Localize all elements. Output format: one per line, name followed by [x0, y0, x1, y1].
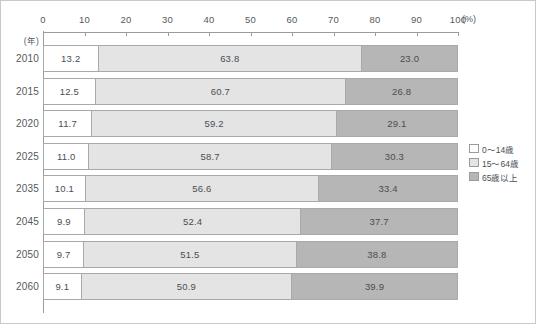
row-year-label: 2015	[1, 78, 39, 105]
segment-age-15-64[interactable]: 59.2	[92, 111, 337, 136]
segment-age-0-14[interactable]: 11.0	[44, 144, 89, 169]
row-year-label: 2010	[1, 45, 39, 72]
segment-age-65-plus[interactable]: 39.9	[292, 274, 457, 299]
legend-item: 65歳以上	[469, 170, 533, 183]
legend-label: 0〜14歳	[482, 143, 514, 155]
segment-age-15-64[interactable]: 63.8	[99, 46, 363, 71]
segment-age-65-plus[interactable]: 33.4	[319, 176, 457, 201]
legend-swatch-icon	[469, 144, 479, 153]
stacked-bar[interactable]: 12.560.726.8	[43, 78, 458, 105]
segment-age-0-14[interactable]: 13.2	[44, 46, 99, 71]
row-year-label: 2060	[1, 273, 39, 300]
row-year-label: 2035	[1, 175, 39, 202]
stacked-bar[interactable]: 9.952.437.7	[43, 208, 458, 235]
stacked-bar[interactable]: 10.156.633.4	[43, 175, 458, 202]
row-year-label: 2045	[1, 208, 39, 235]
segment-age-15-64[interactable]: 58.7	[89, 144, 331, 169]
legend-label: 15〜64歳	[482, 157, 519, 169]
legend-label: 65歳以上	[482, 171, 518, 183]
segment-age-65-plus[interactable]: 23.0	[362, 46, 457, 71]
legend: 0〜14歳15〜64歳65歳以上	[469, 142, 533, 184]
segment-age-0-14[interactable]: 12.5	[44, 79, 96, 104]
stacked-bar[interactable]: 11.058.730.3	[43, 143, 458, 170]
segment-age-65-plus[interactable]: 30.3	[332, 144, 457, 169]
segment-age-0-14[interactable]: 10.1	[44, 176, 86, 201]
stacked-bar[interactable]: 11.759.229.1	[43, 110, 458, 137]
segment-age-65-plus[interactable]: 26.8	[346, 79, 457, 104]
segment-age-15-64[interactable]: 52.4	[85, 209, 301, 234]
row-year-label: 2050	[1, 241, 39, 268]
segment-age-0-14[interactable]: 9.1	[44, 274, 82, 299]
row-year-label: 2025	[1, 143, 39, 170]
stacked-bar[interactable]: 9.751.538.8	[43, 241, 458, 268]
row-year-label: 2020	[1, 110, 39, 137]
legend-swatch-icon	[469, 172, 479, 181]
stacked-bar[interactable]: 9.150.939.9	[43, 273, 458, 300]
segment-age-15-64[interactable]: 51.5	[84, 242, 297, 267]
legend-item: 15〜64歳	[469, 156, 533, 169]
segment-age-65-plus[interactable]: 29.1	[337, 111, 457, 136]
legend-item: 0〜14歳	[469, 142, 533, 155]
bar-rows: 201013.263.823.0201512.560.726.8202011.7…	[1, 1, 536, 324]
segment-age-0-14[interactable]: 9.7	[44, 242, 84, 267]
segment-age-65-plus[interactable]: 37.7	[301, 209, 457, 234]
segment-age-15-64[interactable]: 60.7	[96, 79, 347, 104]
segment-age-0-14[interactable]: 11.7	[44, 111, 92, 136]
legend-swatch-icon	[469, 158, 479, 167]
segment-age-15-64[interactable]: 50.9	[82, 274, 292, 299]
segment-age-65-plus[interactable]: 38.8	[297, 242, 457, 267]
segment-age-15-64[interactable]: 56.6	[86, 176, 320, 201]
segment-age-0-14[interactable]: 9.9	[44, 209, 85, 234]
stacked-bar-chart-figure: 0102030405060708090100(%) (年) 201013.263…	[0, 0, 536, 324]
stacked-bar[interactable]: 13.263.823.0	[43, 45, 458, 72]
